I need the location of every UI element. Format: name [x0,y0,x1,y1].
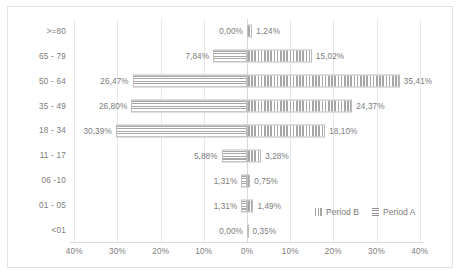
data-label-period-b: 35,41% [404,77,432,86]
x-tick-label: 30% [368,247,385,256]
x-tick-label: 30% [109,247,126,256]
data-label-period-b: 18,10% [329,126,357,135]
y-axis-category-label: 11 - 17 [18,143,66,168]
data-label-period-a: 7,84% [185,52,209,61]
x-axis-tick-labels: 40%30%20%10%0%10%20%30%40% [70,247,424,263]
data-label-period-b: 24,37% [356,102,384,111]
data-label-period-a: 0,00% [219,226,243,235]
x-tick-label: 40% [66,247,83,256]
bar-period-b[interactable] [247,100,352,113]
y-axis-category-label: >=80 [18,19,66,44]
data-label-period-a: 26,47% [100,77,128,86]
bar-period-a[interactable] [133,75,247,88]
bar-period-a[interactable] [131,100,247,113]
legend-label-period-a: Period A [383,207,416,217]
chart-row: 30,39%18,10% [70,119,424,144]
bar-period-a[interactable] [213,50,247,63]
x-tick-label: 20% [325,247,342,256]
data-label-period-a: 5,88% [194,151,218,160]
chart-row: 0,00%1,24% [70,19,424,44]
bar-period-b[interactable] [247,149,261,162]
y-axis-category-label: 18 - 34 [18,119,66,144]
legend-item-period-a[interactable]: Period A [372,207,416,217]
legend-swatch-period-a-icon [372,208,379,216]
legend-item-period-b[interactable]: Period B [315,207,359,217]
legend-label-period-b: Period B [326,207,359,217]
chart-row: 26,47%35,41% [70,69,424,94]
bar-period-a[interactable] [116,124,247,137]
data-label-period-b: 3,28% [265,151,289,160]
data-label-period-b: 0,35% [253,226,277,235]
legend-swatch-period-b-icon [315,208,322,216]
y-axis-category-label: 06 -10 [18,168,66,193]
y-axis-category-label: 35 - 49 [18,94,66,119]
x-tick-label: 0% [241,247,253,256]
data-label-period-a: 1,31% [214,201,238,210]
data-label-period-b: 1,24% [256,27,280,36]
x-tick-label: 10% [282,247,299,256]
x-tick-label: 20% [152,247,169,256]
chart-row: 0,00%0,35% [70,218,424,243]
chart-row: 26,80%24,37% [70,94,424,119]
bar-period-b[interactable] [247,50,312,63]
y-axis-category-label: 65 - 79 [18,44,66,69]
data-label-period-a: 30,39% [83,126,111,135]
bar-period-b[interactable] [247,124,325,137]
x-tick-label: 40% [411,247,428,256]
data-label-period-a: 26,80% [99,102,127,111]
bar-period-b[interactable] [247,224,249,237]
data-label-period-b: 15,02% [316,52,344,61]
data-label-period-a: 1,31% [214,176,238,185]
x-axis-line [70,242,424,243]
chart-row: 5,88%3,28% [70,143,424,168]
bar-period-b[interactable] [247,25,252,38]
bar-period-b[interactable] [247,199,253,212]
y-axis-category-label: <01 [18,218,66,243]
y-axis-category-label: 50 - 64 [18,69,66,94]
bar-period-a[interactable] [222,149,247,162]
bar-period-b[interactable] [247,174,250,187]
data-label-period-b: 0,75% [254,176,278,185]
chart-container: >=8065 - 7950 - 6435 - 4918 - 3411 - 170… [7,6,453,268]
data-label-period-b: 1,49% [257,201,281,210]
chart-legend: Period B Period A [315,207,415,217]
y-axis-category-labels: >=8065 - 7950 - 6435 - 4918 - 3411 - 170… [18,19,66,243]
bar-period-b[interactable] [247,75,400,88]
x-tick-label: 10% [195,247,212,256]
chart-row: 1,31%0,75% [70,168,424,193]
y-axis-category-label: 01 - 05 [18,193,66,218]
chart-row: 7,84%15,02% [70,44,424,69]
data-label-period-a: 0,00% [219,27,243,36]
